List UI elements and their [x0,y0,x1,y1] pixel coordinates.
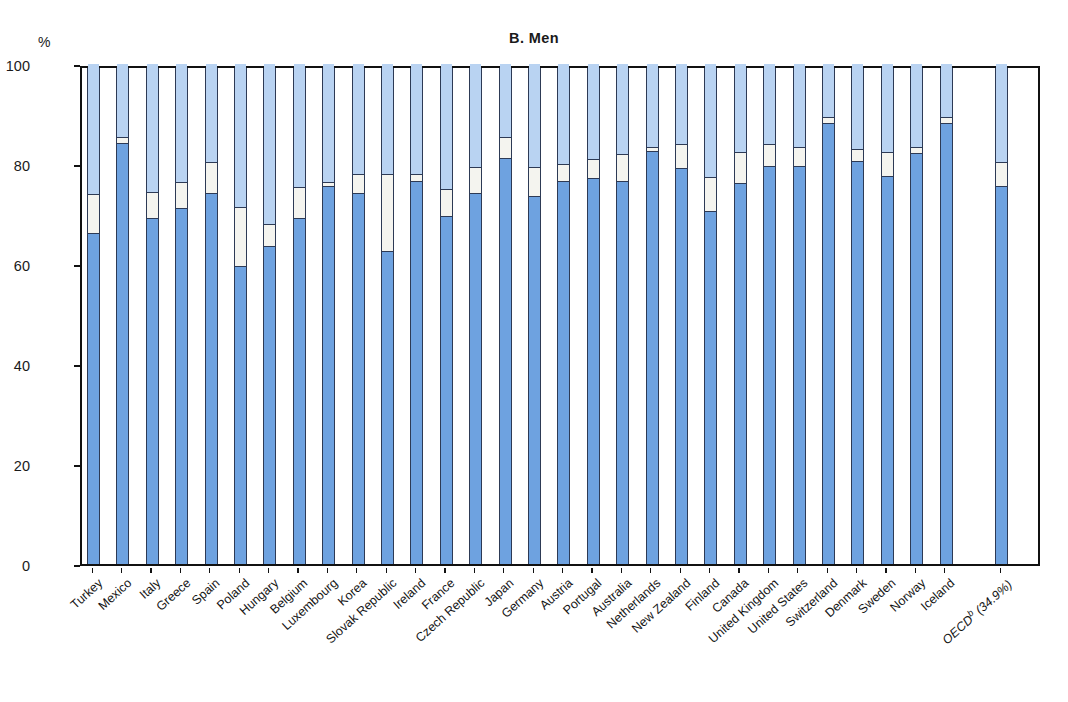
stacked-bar[interactable] [587,68,600,564]
bar-country[interactable] [528,68,541,564]
stacked-bar[interactable] [734,68,747,564]
bar-country[interactable] [146,68,159,564]
bar-country[interactable] [175,68,188,564]
bar-country[interactable] [881,68,894,564]
bar-segment-unemployed [264,224,275,247]
stacked-bar[interactable] [646,68,659,564]
bar-country[interactable] [793,68,806,564]
stacked-bar[interactable] [205,68,218,564]
stacked-bar[interactable] [793,68,806,564]
stacked-bar[interactable] [322,68,335,564]
bar-segment-unemployed [353,174,364,194]
stacked-bar[interactable] [263,68,276,564]
bar-segment-unemployed [705,177,716,212]
bar-country[interactable] [322,68,335,564]
stacked-bar[interactable] [851,68,864,564]
bar-country[interactable] [557,68,570,564]
bar-segment-unemployed [500,137,511,160]
bar-segment-employed [794,167,805,565]
x-axis-tick-mark [415,568,416,573]
bar-segment-employed [88,234,99,564]
x-axis-tick-mark [386,568,387,573]
stacked-bar[interactable] [175,68,188,564]
bar-segment-inactive [911,64,922,147]
bar-segment-employed [500,159,511,564]
stacked-bar[interactable] [763,68,776,564]
bar-segment-employed [852,162,863,565]
bar-segment-unemployed [996,162,1007,187]
bar-country[interactable] [87,68,100,564]
stacked-bar[interactable] [352,68,365,564]
bar-segment-inactive [617,64,628,154]
stacked-bar[interactable] [293,68,306,564]
bar-segment-employed [647,152,658,565]
stacked-bar[interactable] [616,68,629,564]
bar-country[interactable] [234,68,247,564]
bar-segment-inactive [735,64,746,152]
stacked-bar[interactable] [381,68,394,564]
bar-country[interactable] [646,68,659,564]
x-axis-tick-mark [944,568,945,573]
stacked-bar[interactable] [881,68,894,564]
stacked-bar[interactable] [469,68,482,564]
y-axis-tick-label: 80 [0,158,30,174]
bar-segment-inactive [411,64,422,174]
bar-country[interactable] [116,68,129,564]
bar-segment-inactive [941,64,952,117]
y-axis-tick-label: 60 [0,258,30,274]
bar-segment-employed [705,212,716,565]
stacked-bar[interactable] [675,68,688,564]
stacked-bar[interactable] [910,68,923,564]
bar-segment-unemployed [470,167,481,195]
bar-country[interactable] [763,68,776,564]
x-axis-tick-mark [268,568,269,573]
bar-country[interactable] [293,68,306,564]
bar-segment-unemployed [441,189,452,217]
stacked-bar[interactable] [146,68,159,564]
bar-segment-inactive [794,64,805,147]
bar-country[interactable] [822,68,835,564]
bar-country[interactable] [410,68,423,564]
bar-segment-inactive [294,64,305,187]
stacked-bar[interactable] [410,68,423,564]
y-axis-tick-label: 40 [0,358,30,374]
bar-segment-unemployed [882,152,893,177]
stacked-bar[interactable] [440,68,453,564]
bar-country[interactable] [205,68,218,564]
bar-segment-unemployed [558,164,569,182]
bar-segment-inactive [558,64,569,164]
bar-oecd-aggregate[interactable] [995,68,1008,564]
bar-segment-unemployed [823,117,834,125]
stacked-bar[interactable] [557,68,570,564]
x-axis-tick-mark [827,568,828,573]
bar-segment-employed [441,217,452,565]
bar-country[interactable] [734,68,747,564]
bar-country[interactable] [910,68,923,564]
stacked-bar[interactable] [528,68,541,564]
bar-segment-inactive [588,64,599,159]
bar-country[interactable] [587,68,600,564]
bar-country[interactable] [469,68,482,564]
bar-country[interactable] [352,68,365,564]
x-axis-tick-mark [121,568,122,573]
bar-segment-unemployed [764,144,775,167]
bar-country[interactable] [851,68,864,564]
bar-country[interactable] [704,68,717,564]
bar-country[interactable] [675,68,688,564]
stacked-bar[interactable] [995,68,1008,564]
bar-segment-inactive [852,64,863,149]
stacked-bar[interactable] [704,68,717,564]
stacked-bar[interactable] [87,68,100,564]
bar-country[interactable] [381,68,394,564]
stacked-bar[interactable] [499,68,512,564]
stacked-bar[interactable] [822,68,835,564]
bar-country[interactable] [263,68,276,564]
bar-country[interactable] [940,68,953,564]
bar-country[interactable] [440,68,453,564]
bar-country[interactable] [616,68,629,564]
stacked-bar[interactable] [940,68,953,564]
stacked-bar[interactable] [234,68,247,564]
bar-segment-employed [117,144,128,564]
bar-country[interactable] [499,68,512,564]
stacked-bar[interactable] [116,68,129,564]
